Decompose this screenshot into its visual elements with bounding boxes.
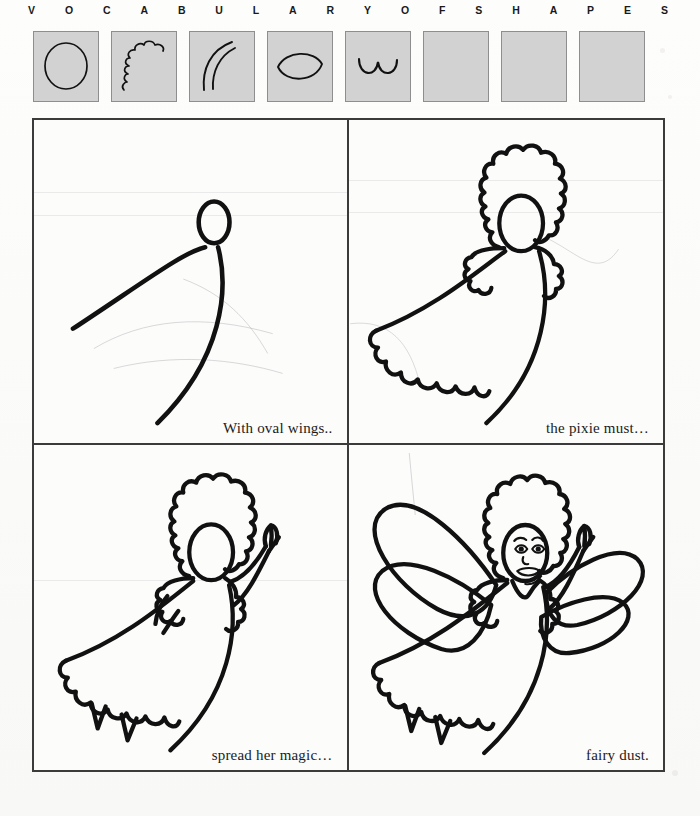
tutorial-panel-4: fairy dust. (349, 445, 664, 770)
shape-box-1-circle (33, 31, 99, 102)
pixie-step-4-wings-and-face (349, 445, 664, 770)
panel-2-caption: the pixie must… (546, 420, 649, 437)
title-letter: H (512, 4, 520, 16)
title-letter: F (439, 4, 445, 16)
title-letter: Y (364, 4, 371, 16)
title-letter: P (587, 4, 594, 16)
tutorial-panel-2: the pixie must… (349, 120, 664, 445)
paper-blemish (672, 770, 678, 776)
pixie-step-3-arms-hands-and-feet (34, 445, 347, 770)
shape-box-2-scalloped-cloud (111, 31, 177, 102)
tutorial-panel-grid: With oval wings.. (32, 118, 665, 772)
tutorial-panel-1: With oval wings.. (34, 120, 349, 445)
shape-box-3-double-curve (189, 31, 255, 102)
title-letter: A (550, 4, 558, 16)
title-letter: L (253, 4, 259, 16)
title-letter: S (475, 4, 482, 16)
shape-box-5-double-scallop (345, 31, 411, 102)
title-letter: O (401, 4, 409, 16)
double-curve-shape-icon (190, 32, 254, 101)
title-letter: V (28, 4, 35, 16)
lens-oval-shape-icon (268, 32, 332, 101)
pixie-step-2-hair-sleeves-and-scalloped-hem (349, 120, 664, 443)
shape-box-4-pointed-oval (267, 31, 333, 102)
pixie-step-1-oval-head-and-body-curves (34, 120, 347, 443)
title-letter: B (178, 4, 186, 16)
vocabulary-of-shapes-title: V O C A B U L A R Y O F S H A P E S (28, 4, 668, 16)
shape-box-8-empty (579, 31, 645, 102)
title-letter: E (624, 4, 631, 16)
shape-vocabulary-strip (33, 31, 665, 103)
paper-blemish (668, 95, 672, 99)
title-letter: R (327, 4, 335, 16)
vocabulary-header: V O C A B U L A R Y O F S H A P E S (0, 0, 700, 24)
title-letter: A (140, 4, 148, 16)
panel-3-caption: spread her magic… (212, 747, 333, 764)
shape-box-7-empty (501, 31, 567, 102)
tutorial-panel-3: spread her magic… (34, 445, 349, 770)
panel-4-caption: fairy dust. (586, 747, 649, 764)
title-letter: O (65, 4, 73, 16)
title-letter: S (661, 4, 668, 16)
title-letter: A (289, 4, 297, 16)
double-scallop-shape-icon (346, 32, 410, 101)
circle-shape-icon (34, 32, 98, 101)
shape-box-6-empty (423, 31, 489, 102)
title-letter: C (103, 4, 111, 16)
panel-1-caption: With oval wings.. (223, 420, 332, 437)
title-letter: U (215, 4, 223, 16)
scalloped-cloud-shape-icon (112, 32, 176, 101)
